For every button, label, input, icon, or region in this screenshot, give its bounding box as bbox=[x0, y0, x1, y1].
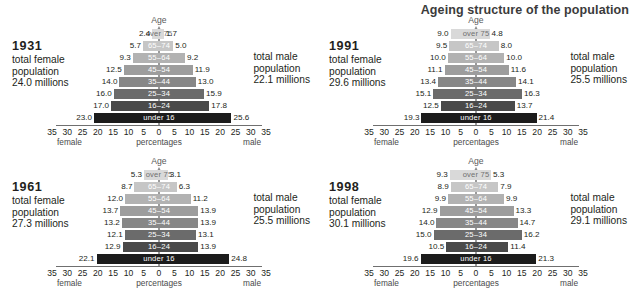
pyramid-row: 65–748.76.3 bbox=[60, 182, 258, 192]
female-bar bbox=[441, 101, 476, 111]
male-value: 15.9 bbox=[204, 89, 222, 99]
pyramid-row: 35–4413.414.1 bbox=[377, 77, 575, 87]
male-value: 17.8 bbox=[209, 101, 227, 111]
tick-label: 25 bbox=[75, 268, 91, 278]
male-value: 4.8 bbox=[490, 29, 503, 39]
age-axis-label: Age bbox=[377, 15, 575, 25]
male-caption-1931: total malepopulation22.1 millions bbox=[253, 51, 310, 86]
tick-label: 25 bbox=[227, 268, 243, 278]
tick-label: 15 bbox=[422, 127, 438, 137]
tick-label: 30 bbox=[243, 268, 259, 278]
male-bar bbox=[476, 77, 516, 87]
tick-label: 10 bbox=[499, 268, 515, 278]
tick-label: 0 bbox=[151, 127, 167, 137]
female-bar bbox=[119, 77, 159, 87]
female-bar bbox=[451, 29, 476, 39]
male-bar bbox=[476, 101, 515, 111]
female-bar bbox=[94, 113, 159, 123]
female-bar bbox=[125, 194, 159, 204]
pyramid-row: 25–3415.016.2 bbox=[377, 230, 575, 240]
tick-label: 35 bbox=[258, 127, 274, 137]
pyramid-row: 55–6410.010.0 bbox=[377, 53, 575, 63]
male-value: 14.1 bbox=[516, 77, 534, 87]
female-bar bbox=[438, 77, 476, 87]
female-value: 12.5 bbox=[106, 65, 124, 75]
male-value: 9.9 bbox=[504, 194, 517, 204]
female-value: 12.5 bbox=[423, 101, 441, 111]
pyramid-row: 35–4413.213.9 bbox=[60, 218, 258, 228]
male-total: 25.5 millions bbox=[570, 74, 627, 86]
male-bar bbox=[159, 194, 191, 204]
panel-1931: 1931total femalepopulation24.0 millionst… bbox=[0, 1, 318, 141]
pyramid-row: 25–3416.015.9 bbox=[60, 89, 258, 99]
pyramid-row: 65–749.58.0 bbox=[377, 41, 575, 51]
male-value: 13.9 bbox=[198, 218, 216, 228]
male-bar bbox=[476, 41, 499, 51]
female-bar bbox=[152, 29, 159, 39]
female-bar bbox=[421, 113, 476, 123]
tick-label: 35 bbox=[44, 127, 60, 137]
male-bar bbox=[476, 182, 498, 192]
female-value: 9.3 bbox=[119, 53, 132, 63]
female-value: 5.7 bbox=[130, 41, 143, 51]
tick-label: 35 bbox=[361, 268, 377, 278]
pyramid-row: 55–6412.011.2 bbox=[60, 194, 258, 204]
pyramid-row: 35–4414.014.7 bbox=[377, 218, 575, 228]
female-value: 9.3 bbox=[436, 170, 449, 180]
male-total: 29.1 millions bbox=[570, 215, 627, 227]
female-value: 22.1 bbox=[79, 254, 97, 264]
female-value: 2.4 bbox=[139, 29, 152, 39]
male-bar bbox=[476, 254, 536, 264]
pyramid-row: under 1622.124.8 bbox=[60, 254, 258, 264]
tick-label: 25 bbox=[544, 127, 560, 137]
tick-label: 5 bbox=[483, 268, 499, 278]
female-bar bbox=[133, 53, 159, 63]
female-bar bbox=[448, 53, 476, 63]
female-value: 16.0 bbox=[96, 89, 114, 99]
pyramid-row: 55–649.39.2 bbox=[60, 53, 258, 63]
female-bar bbox=[122, 218, 159, 228]
male-bar bbox=[159, 242, 198, 252]
tick-label: 20 bbox=[212, 127, 228, 137]
age-axis-label: Age bbox=[377, 156, 575, 166]
female-bar bbox=[111, 101, 159, 111]
tick-label: 30 bbox=[59, 268, 75, 278]
female-bar bbox=[434, 230, 476, 240]
pyramid-1931: Ageover 752.41.765–745.75.055–649.39.245… bbox=[60, 29, 258, 125]
male-bar bbox=[159, 77, 196, 87]
pyramid-row: 45–5412.913.3 bbox=[377, 206, 575, 216]
tick-label: 10 bbox=[437, 127, 453, 137]
tick-label: 30 bbox=[376, 127, 392, 137]
pyramid-row: 45–5412.511.9 bbox=[60, 65, 258, 75]
male-caption-line-2: population bbox=[570, 204, 627, 216]
male-bar bbox=[159, 206, 198, 216]
female-bar bbox=[421, 254, 476, 264]
pyramid-row: 25–3415.116.3 bbox=[377, 89, 575, 99]
male-value: 6.3 bbox=[177, 182, 190, 192]
tick-label: 5 bbox=[453, 127, 469, 137]
female-bar bbox=[125, 230, 159, 240]
pyramid-1998: Ageover 759.35.365–748.97.955–649.99.945… bbox=[377, 170, 575, 266]
female-value: 17.0 bbox=[93, 101, 111, 111]
male-bar bbox=[159, 182, 177, 192]
female-value: 11.1 bbox=[427, 65, 444, 75]
male-value: 9.2 bbox=[185, 53, 198, 63]
panel-1998: 1998total femalepopulation30.1 millionst… bbox=[317, 142, 635, 282]
male-value: 14.7 bbox=[518, 218, 536, 228]
pyramid-row: 65–745.75.0 bbox=[60, 41, 258, 51]
pyramid-1991: Ageover 759.04.865–749.58.055–6410.010.0… bbox=[377, 29, 575, 125]
female-value: 8.9 bbox=[438, 182, 451, 192]
panel-1991: 1991total femalepopulation29.6 millionst… bbox=[317, 1, 635, 141]
female-bar bbox=[114, 89, 159, 99]
female-bar bbox=[451, 182, 476, 192]
age-axis-label: Age bbox=[60, 156, 258, 166]
male-bar bbox=[476, 89, 522, 99]
tick-label: 20 bbox=[212, 268, 228, 278]
male-caption-1991: total malepopulation25.5 millions bbox=[570, 51, 627, 86]
male-caption-line-2: population bbox=[253, 63, 310, 75]
pyramid-row: 65–748.97.9 bbox=[377, 182, 575, 192]
male-bar bbox=[476, 242, 508, 252]
tick-label: 35 bbox=[575, 268, 591, 278]
tick-label: 10 bbox=[120, 127, 136, 137]
